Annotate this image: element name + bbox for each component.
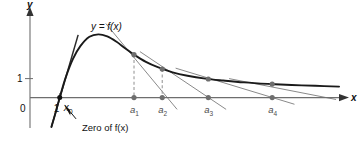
y-axis-label: y xyxy=(27,0,33,10)
newtons-method-figure: y x y = f(x) 0 1 1 x0 Zero of f(x) a1a2a… xyxy=(0,0,359,150)
point-curve-point-1 xyxy=(131,52,136,57)
tangent-at-a3 xyxy=(176,68,295,104)
function-curve xyxy=(51,34,339,127)
plot-canvas xyxy=(0,0,359,150)
iterate-label-a4: a4 xyxy=(268,105,277,117)
x-axis-label: x xyxy=(351,93,357,103)
point-axis-point-a1 xyxy=(131,95,136,100)
data-points-group xyxy=(57,52,275,100)
y-tick-label-1: 1 xyxy=(17,74,23,84)
root-label: x0 xyxy=(64,103,73,115)
origin-label: 0 xyxy=(20,104,26,114)
x-tick-label-1: 1 xyxy=(54,104,60,114)
point-curve-point-2 xyxy=(160,67,165,72)
zero-annotation-label: Zero of f(x) xyxy=(82,123,128,133)
iterate-label-a3: a3 xyxy=(204,105,213,117)
point-axis-point-a4 xyxy=(270,95,275,100)
point-axis-point-a3 xyxy=(206,95,211,100)
iterate-label-a1: a1 xyxy=(130,105,139,117)
dashed-drop-lines-group xyxy=(134,55,162,98)
function-curve-group xyxy=(51,34,339,127)
tangent-lines-group xyxy=(51,24,336,128)
iterate-label-a2: a2 xyxy=(158,105,167,117)
point-curve-point-3 xyxy=(206,76,211,81)
curve-equation-label: y = f(x) xyxy=(91,22,122,32)
point-axis-point-a2 xyxy=(160,95,165,100)
tangent-at-a1 xyxy=(106,24,177,110)
point-root xyxy=(57,95,62,100)
axes-group xyxy=(25,7,349,128)
x-axis-arrowhead xyxy=(339,94,349,101)
point-curve-point-4 xyxy=(270,82,275,87)
